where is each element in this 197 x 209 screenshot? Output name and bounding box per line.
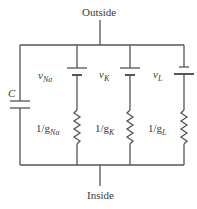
membrane-circuit-diagram: Outside Inside C vNa vK vL 1/gNa 1/gK 1/… [0, 0, 197, 209]
voltage-na-label: vNa [38, 70, 52, 81]
battery-k-icon [120, 45, 140, 110]
battery-l-icon [174, 45, 194, 110]
capacitor-symbol [10, 45, 30, 165]
conductance-na-label: 1/gNa [36, 123, 59, 134]
conductance-k-label: 1/gK [95, 123, 114, 134]
resistor-na-icon [74, 110, 80, 165]
circuit-wires [0, 0, 197, 209]
capacitor-label: C [8, 88, 15, 99]
battery-na-icon [67, 45, 87, 110]
outside-label: Outside [82, 7, 116, 18]
voltage-l-label: vL [153, 69, 162, 80]
conductance-l-label: 1/gL [148, 123, 167, 134]
inside-label: Inside [87, 190, 114, 201]
voltage-k-label: vK [99, 69, 109, 80]
resistor-k-icon [127, 110, 133, 165]
resistor-l-icon [181, 110, 187, 165]
